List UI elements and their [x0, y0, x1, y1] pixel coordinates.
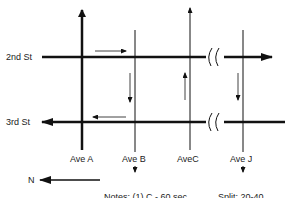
label-ave-b: Ave B — [122, 154, 146, 164]
notes-left: Notes: (1) C - 60 sec — [104, 192, 188, 198]
label-north: N — [28, 175, 35, 185]
label-ave-j: Ave J — [230, 154, 252, 164]
label-3rd-st: 3rd St — [6, 117, 31, 127]
label-ave-a: Ave A — [70, 154, 93, 164]
label-ave-c: AveC — [177, 154, 199, 164]
break-marks — [206, 48, 224, 131]
label-2nd-st: 2nd St — [6, 52, 33, 62]
street-diagram: 2nd St 3rd St Ave A Ave B AveC Ave J N N… — [0, 0, 285, 198]
notes-right: Split: 20-40 — [218, 192, 264, 198]
